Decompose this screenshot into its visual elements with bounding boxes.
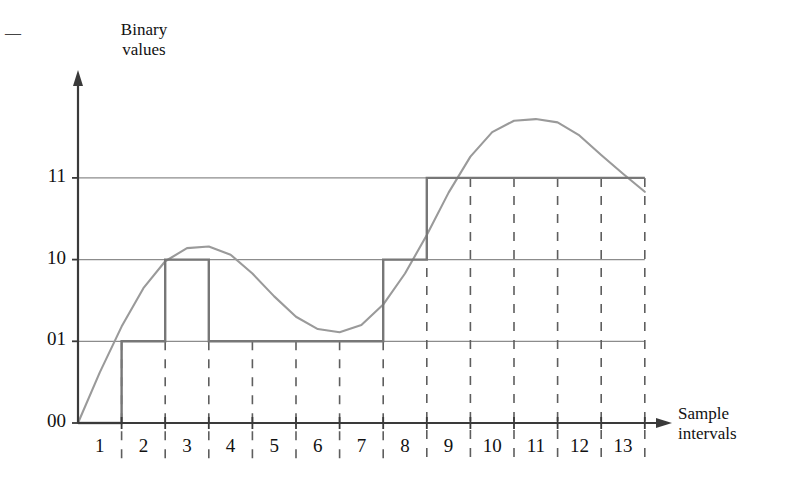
x-tick-label-1: 1: [78, 435, 122, 457]
y-tick-label-11: 11: [20, 165, 66, 187]
plot-canvas: [0, 0, 788, 487]
x-tick-label-10: 10: [470, 435, 514, 457]
x-tick-label-8: 8: [383, 435, 427, 457]
x-axis-arrowhead: [656, 418, 672, 428]
quantized-staircase: [78, 178, 645, 423]
x-tick-label-12: 12: [557, 435, 601, 457]
x-tick-label-5: 5: [252, 435, 296, 457]
x-tick-label-4: 4: [209, 435, 253, 457]
x-tick-label-11: 11: [514, 435, 558, 457]
analog-signal-curve: [78, 119, 645, 423]
x-tick-label-13: 13: [601, 435, 645, 457]
x-tick-label-6: 6: [296, 435, 340, 457]
axes: [72, 70, 672, 429]
x-tick-label-2: 2: [121, 435, 165, 457]
gridlines: [78, 178, 645, 341]
analog-waveform-path: [78, 119, 645, 423]
y-axis-arrowhead: [73, 70, 83, 86]
figure-container: — Binaryvalues Sampleintervals 00011011 …: [0, 0, 788, 487]
y-tick-label-01: 01: [20, 328, 66, 350]
x-tick-label-7: 7: [339, 435, 383, 457]
staircase-path: [78, 178, 645, 423]
y-tick-label-10: 10: [20, 247, 66, 269]
x-tick-label-3: 3: [165, 435, 209, 457]
y-tick-label-00: 00: [20, 410, 66, 432]
x-tick-label-9: 9: [427, 435, 471, 457]
